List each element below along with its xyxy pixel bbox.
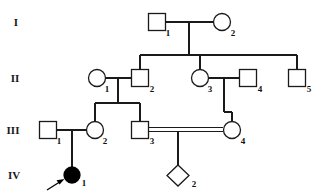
individual-number-IV-1: 1 — [82, 178, 87, 188]
individual-II-4[interactable]: 4 — [240, 70, 263, 95]
individual-II-2[interactable]: 2 — [132, 70, 155, 95]
pedigree-canvas: I II III IV — [0, 0, 319, 194]
square-symbol-male[interactable] — [132, 122, 149, 139]
generation-label-2: II — [11, 72, 20, 84]
circle-symbol-female[interactable] — [192, 70, 209, 87]
pedigree-chart: I II III IV — [0, 0, 319, 194]
individual-number-III-2: 2 — [103, 136, 108, 146]
individual-II-3[interactable]: 3 — [192, 70, 213, 95]
individual-number-II-1: 1 — [105, 84, 110, 94]
square-symbol-male[interactable] — [149, 14, 166, 31]
individual-number-II-4: 4 — [258, 84, 263, 94]
individual-number-II-5: 5 — [307, 84, 312, 94]
square-symbol-male[interactable] — [132, 70, 149, 87]
square-symbol-male[interactable] — [40, 122, 57, 139]
individual-III-2[interactable]: 2 — [87, 122, 108, 147]
individual-number-II-2: 2 — [150, 84, 155, 94]
individual-number-I-2: 2 — [231, 28, 236, 38]
pedigree-connectors — [57, 22, 297, 167]
square-symbol-male[interactable] — [240, 70, 257, 87]
individual-number-II-3: 3 — [208, 84, 213, 94]
circle-symbol-female[interactable] — [214, 14, 231, 31]
individual-II-1[interactable]: 1 — [89, 70, 110, 95]
square-symbol-male[interactable] — [289, 70, 306, 87]
diamond-symbol-unknown-sex[interactable] — [167, 165, 189, 186]
generation-label-4: IV — [8, 169, 20, 181]
individual-III-4[interactable]: 4 — [224, 122, 246, 147]
individual-number-I-1: 1 — [166, 28, 171, 38]
individual-number-III-4: 4 — [241, 136, 246, 146]
individual-III-1[interactable]: 1 — [40, 122, 62, 147]
generation-label-1: I — [14, 16, 18, 28]
individual-III-3[interactable]: 3 — [132, 122, 155, 147]
generation-labels: I II III IV — [7, 16, 21, 181]
circle-symbol-female-affected[interactable] — [64, 167, 80, 183]
individual-number-III-3: 3 — [150, 136, 155, 146]
circle-symbol-female[interactable] — [224, 122, 241, 139]
generation-label-3: III — [7, 124, 20, 136]
individual-I-2[interactable]: 2 — [214, 14, 236, 39]
individual-number-III-1: 1 — [57, 136, 62, 146]
circle-symbol-female[interactable] — [87, 122, 104, 139]
individual-IV-2[interactable]: 2 — [167, 165, 197, 189]
proband-arrow-icon — [47, 179, 65, 190]
individual-I-1[interactable]: 1 — [149, 14, 171, 39]
circle-symbol-female[interactable] — [89, 70, 106, 87]
individual-number-IV-2: 2 — [192, 179, 197, 189]
individual-IV-1[interactable]: 1 — [64, 167, 87, 188]
individual-II-5[interactable]: 5 — [289, 70, 312, 95]
